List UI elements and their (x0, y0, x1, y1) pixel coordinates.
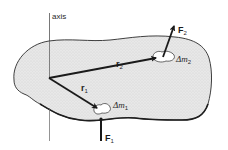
rigid-body-diagram: axis r2 r1 Δm2 Δm1 F2 F1 (0, 0, 228, 150)
label-f1: F1 (105, 133, 115, 144)
axis-label: axis (52, 12, 66, 21)
label-f2: F2 (178, 25, 188, 36)
